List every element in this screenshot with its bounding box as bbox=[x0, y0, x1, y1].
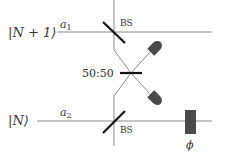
bs-bottom-label: BS bbox=[120, 125, 133, 135]
lower-output-path bbox=[114, 73, 131, 146]
bs-top-label: BS bbox=[120, 18, 133, 28]
beam-to-lower-detector bbox=[131, 73, 150, 94]
input-state-top: |N + 1⟩ bbox=[8, 25, 56, 40]
mode-label-a2: a2 bbox=[60, 106, 72, 120]
input-state-bottom: |N⟩ bbox=[8, 113, 29, 128]
upper-output-path bbox=[114, 0, 131, 73]
phase-shifter bbox=[185, 110, 196, 134]
bs-center-label: 50:50 bbox=[82, 67, 114, 80]
detector-upper-icon bbox=[147, 39, 164, 56]
detector-lower-icon bbox=[147, 90, 164, 107]
interferometer-diagram: |N + 1⟩ a1 |N⟩ a2 BS BS 50:50 ϕ bbox=[0, 0, 226, 154]
phase-label: ϕ bbox=[186, 139, 194, 152]
beam-to-upper-detector bbox=[131, 52, 150, 73]
mode-label-a1: a1 bbox=[60, 18, 72, 32]
